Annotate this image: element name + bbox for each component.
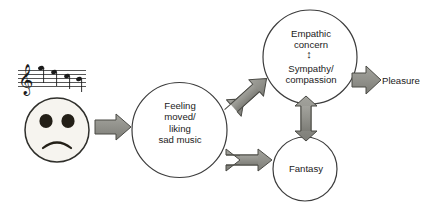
sad-face-icon xyxy=(25,98,89,162)
music-note xyxy=(76,76,83,92)
double-headed-arrow-icon: ↕ xyxy=(296,49,322,60)
music-note xyxy=(51,69,58,86)
arrow-stimulus-to-feeling xyxy=(95,114,131,140)
node-label-feeling: Feeling moved/ liking sad music xyxy=(139,100,221,145)
arrow-empathic-to-fantasy xyxy=(295,96,317,141)
figure-canvas: 𝄞 xyxy=(0,0,437,210)
music-note xyxy=(38,65,45,83)
arrow-feeling-to-fantasy xyxy=(226,149,272,171)
treble-clef-icon: 𝄞 xyxy=(18,64,33,96)
node-label-pleasure: Pleasure xyxy=(382,75,436,86)
node-label-fantasy: Fantasy xyxy=(277,163,335,174)
music-staff-icon: 𝄞 xyxy=(18,64,86,96)
arrow-feeling-to-empathic xyxy=(221,70,274,121)
arrow-empathic-to-pleasure xyxy=(352,66,381,94)
node-label-sympathy: Sympathy/ compassion xyxy=(268,63,354,86)
